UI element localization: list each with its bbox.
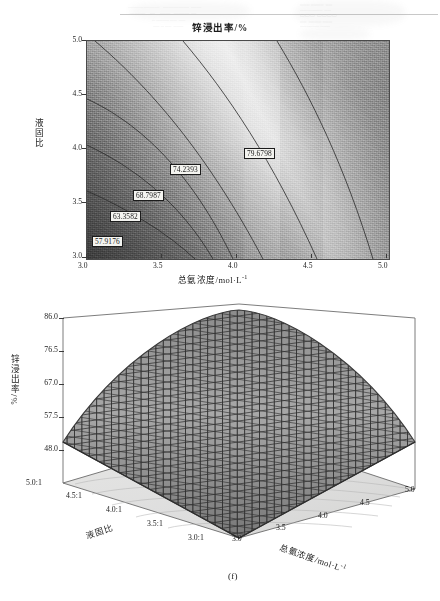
surface-ztick-4: 48.0 — [26, 444, 58, 453]
surface-right-tick-c: 4.0 — [318, 511, 328, 520]
surface-left-tick-0: 5.0:1 — [26, 478, 42, 487]
surface-right-tick-b: 3.5 — [276, 523, 286, 532]
contour-x-axis-label: 总氨浓度/mol·L-1 — [178, 273, 248, 285]
surface-ztick-1: 76.5 — [26, 345, 58, 354]
surface-right-tick-a: 3.0 — [232, 534, 242, 543]
surface-ztick-2: 67.0 — [26, 378, 58, 387]
figure-page: —————— ————— —— ——— — —— ——— — ═══ ════ … — [0, 0, 440, 601]
contour-xtick-1: 3.5 — [153, 261, 163, 270]
contour-xtick-0: 3.0 — [78, 261, 88, 270]
contour-ytick-4: 3.0 — [58, 251, 82, 260]
contour-x-axis-label-exponent: -1 — [242, 273, 248, 280]
contour-xtick-3: 4.5 — [303, 261, 313, 270]
surface-figure: 86.0 76.5 67.0 57.5 48.0 锌浸出率/% 5.0:1 4.… — [0, 292, 440, 601]
surface-left-tick-2: 4.0:1 — [106, 505, 122, 514]
contour-ytick-mark-1 — [82, 94, 86, 95]
contour-xtick-mark-1 — [161, 254, 162, 258]
contour-plot-area — [86, 40, 390, 260]
contour-xtick-mark-0 — [86, 254, 87, 258]
surface-right-tick-d: 4.5 — [360, 498, 370, 507]
surface-ztick-mark-2 — [59, 384, 64, 385]
contour-xtick-mark-2 — [236, 254, 237, 258]
contour-ytick-2: 4.0 — [58, 143, 82, 152]
contour-x-axis-label-text: 总氨浓度/mol·L — [178, 275, 242, 285]
contour-ytick-mark-0 — [82, 40, 86, 41]
contour-xtick-4: 5.0 — [378, 261, 388, 270]
surface-ztick-0: 86.0 — [26, 312, 58, 321]
surface-ztick-mark-4 — [59, 450, 64, 451]
surface-ztick-mark-3 — [59, 417, 64, 418]
surface-z-axis-label: 锌浸出率/% — [8, 354, 20, 406]
contour-xtick-mark-4 — [386, 254, 387, 258]
contour-line-68 — [87, 99, 233, 259]
contour-label-3: 74.2393 — [170, 164, 201, 175]
contour-label-1: 63.3582 — [110, 211, 141, 222]
contour-ytick-mark-3 — [82, 202, 86, 203]
surface-left-tick-4: 3.0:1 — [188, 533, 204, 542]
surface-ztick-mark-0 — [59, 318, 64, 319]
contour-label-4: 79.6798 — [244, 148, 275, 159]
surface-ztick-3: 57.5 — [26, 411, 58, 420]
contour-label-2: 68.7987 — [133, 190, 164, 201]
surface-plot-canvas — [0, 292, 440, 601]
contour-ytick-0: 5.0 — [58, 35, 82, 44]
contour-figure: 锌浸出率/% 57.9176 63.3582 68.7987 — [0, 0, 440, 292]
contour-lines-group — [87, 41, 389, 259]
contour-line-57 — [87, 191, 195, 259]
contour-xtick-mark-3 — [311, 254, 312, 258]
contour-ytick-mark-2 — [82, 148, 86, 149]
contour-title: 锌浸出率/% — [0, 20, 440, 34]
contour-y-axis-label: 液固比 — [32, 118, 44, 148]
surface-left-tick-1: 4.5:1 — [66, 491, 82, 500]
contour-label-0: 57.9176 — [92, 236, 123, 247]
contour-ytick-3: 3.5 — [58, 197, 82, 206]
surface-right-tick-e: 5.0 — [405, 485, 415, 494]
contour-xtick-2: 4.0 — [228, 261, 238, 270]
surface-ztick-mark-1 — [59, 351, 64, 352]
contour-line-85 — [277, 41, 373, 259]
figure-caption: (f) — [228, 571, 238, 581]
contour-ytick-1: 4.5 — [58, 89, 82, 98]
surface-left-tick-3: 3.5:1 — [147, 519, 163, 528]
contour-line-74 — [95, 41, 263, 259]
